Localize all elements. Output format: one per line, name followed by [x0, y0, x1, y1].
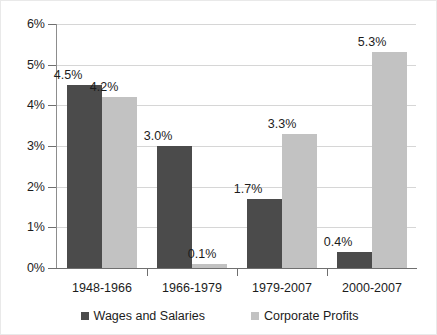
y-axis-tick — [48, 24, 56, 25]
chart-legend: Wages and Salaries Corporate Profits — [1, 309, 437, 323]
bar-value-label: 4.2% — [79, 81, 129, 94]
plot-area — [57, 24, 416, 268]
legend-item-label: Corporate Profits — [264, 309, 358, 323]
bar-corporate-profits[interactable] — [372, 52, 407, 268]
y-axis-tick — [48, 227, 56, 228]
y-axis-tick-label: 3% — [1, 140, 45, 152]
y-axis-tick — [48, 146, 56, 147]
legend-item-corporate-profits[interactable]: Corporate Profits — [251, 309, 358, 323]
x-axis-tick — [147, 269, 148, 276]
legend-item-label: Wages and Salaries — [94, 309, 205, 323]
x-axis-tick — [327, 269, 328, 276]
bar-corporate-profits[interactable] — [102, 97, 137, 268]
y-axis-tick-label: 0% — [1, 262, 45, 274]
y-axis-tick — [48, 65, 56, 66]
y-axis-tick-label: 5% — [1, 59, 45, 71]
gridline — [57, 65, 416, 66]
legend-swatch-icon — [81, 312, 89, 320]
bar-wages-and-salaries[interactable] — [247, 199, 282, 268]
bar-corporate-profits[interactable] — [282, 134, 317, 268]
bar-value-label: 3.3% — [257, 118, 307, 131]
y-axis-tick-label: 4% — [1, 99, 45, 111]
bar-chart: 6% 5% 4% 3% 2% 1% 0% — [0, 0, 437, 335]
gridline — [57, 24, 416, 25]
y-axis-tick-label: 1% — [1, 221, 45, 233]
bar-wages-and-salaries[interactable] — [67, 85, 102, 268]
y-axis-tick-label: 6% — [1, 18, 45, 30]
x-axis-category-label: 1966-1979 — [147, 281, 237, 295]
legend-swatch-icon — [251, 312, 259, 320]
bar-value-label: 0.4% — [313, 236, 363, 249]
x-axis-tick — [237, 269, 238, 276]
bar-corporate-profits[interactable] — [192, 264, 227, 268]
bar-value-label: 1.7% — [223, 183, 273, 196]
bar-wages-and-salaries[interactable] — [337, 252, 372, 268]
x-axis-category-label: 1979-2007 — [237, 281, 327, 295]
bar-value-label: 0.1% — [177, 248, 227, 261]
x-axis-category-label: 1948-1966 — [57, 281, 147, 295]
y-axis-labels: 6% 5% 4% 3% 2% 1% 0% — [1, 1, 45, 335]
bar-value-label: 3.0% — [133, 130, 183, 143]
legend-item-wages-and-salaries[interactable]: Wages and Salaries — [81, 309, 205, 323]
y-axis-tick-label: 2% — [1, 181, 45, 193]
x-axis-line — [48, 268, 417, 269]
y-axis-tick — [48, 187, 56, 188]
bar-value-label: 5.3% — [347, 36, 397, 49]
y-axis-tick — [48, 105, 56, 106]
x-axis-category-label: 2000-2007 — [327, 281, 417, 295]
